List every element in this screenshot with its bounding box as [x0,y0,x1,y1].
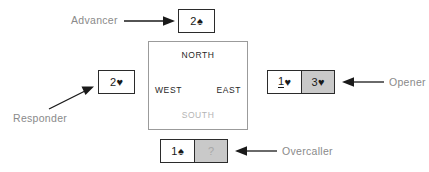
bridge-bidding-diagram: Advancer 2♠ NORTH WEST EAST SOUTH Respon… [0,0,429,172]
bid-cell-opener-1[interactable]: 1♥ [268,71,301,93]
opener-label: Opener [389,77,426,88]
heart-icon: ♥ [117,77,124,88]
bid-cell-responder-1[interactable]: 2♥ [99,71,134,93]
question-mark-icon: ? [208,146,214,157]
spade-icon: ♠ [197,16,203,27]
heart-icon: ♥ [285,77,292,88]
bid-level: 3 [311,77,317,88]
advancer-arrow [124,14,176,28]
bid-cell-overcaller-1[interactable]: 1♠ [161,140,194,162]
advancer-label: Advancer [71,15,118,26]
bid-level: 2 [110,77,116,88]
spade-icon: ♠ [178,146,184,157]
bid-cell-advancer-1[interactable]: 2♠ [179,10,214,32]
bid-cell-overcaller-2[interactable]: ? [194,140,227,162]
responder-label: Responder [13,113,67,124]
bid-level: 1 [278,76,284,88]
overcaller-arrow [234,144,278,158]
advancer-bid-box[interactable]: 2♠ [178,9,215,33]
heart-icon: ♥ [318,77,325,88]
compass-north-label: NORTH [181,51,214,60]
overcaller-label: Overcaller [282,146,333,157]
bid-level: 2 [190,16,196,27]
opener-bid-box[interactable]: 1♥ 3♥ [267,70,335,94]
bid-cell-opener-2[interactable]: 3♥ [301,71,334,93]
overcaller-bid-box[interactable]: 1♠ ? [160,139,228,163]
compass-west-label: WEST [155,86,182,95]
responder-arrow [48,84,96,110]
opener-arrow [341,75,385,89]
compass-box: NORTH WEST EAST SOUTH [148,41,248,130]
compass-east-label: EAST [216,86,241,95]
compass-south-label: SOUTH [182,111,215,120]
responder-bid-box[interactable]: 2♥ [98,70,135,94]
bid-level: 1 [171,146,177,157]
